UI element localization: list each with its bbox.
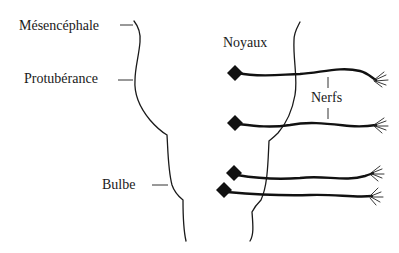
brainstem-left-contour: [134, 21, 186, 241]
nerve-3: [226, 165, 384, 181]
brainstem-right-contour: [250, 22, 300, 241]
diagram-drawing: [0, 0, 399, 253]
nerve-4: [216, 182, 383, 205]
nucleus-diamond-icon: [226, 165, 242, 181]
nerve-1: [227, 65, 388, 87]
brainstem-diagram: Mésencéphale Protubérance Bulbe Noyaux N…: [0, 0, 399, 253]
nucleus-diamond-icon: [216, 182, 232, 198]
nucleus-diamond-icon: [227, 115, 243, 131]
nerve-2: [227, 115, 388, 133]
